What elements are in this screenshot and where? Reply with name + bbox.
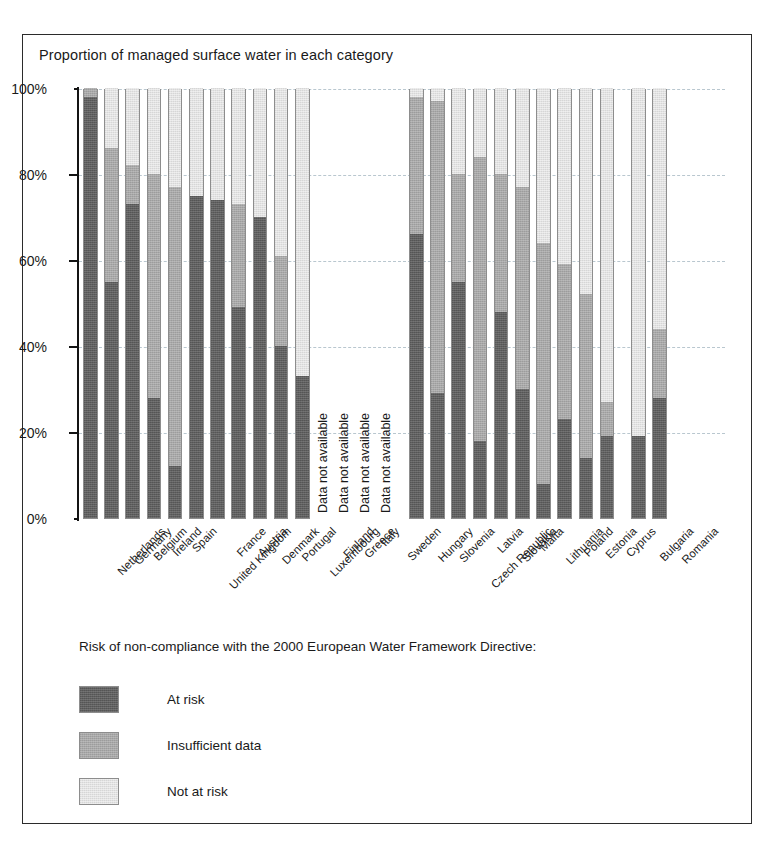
bar-malta[interactable]	[515, 89, 530, 519]
bar-hungary[interactable]	[409, 89, 424, 519]
bar-united-kingdom[interactable]	[189, 89, 204, 519]
bar-segment-at-risk	[105, 282, 118, 519]
bar-segment-insufficient-data	[580, 294, 593, 457]
no-data-label: Data not available	[358, 413, 372, 513]
bar-segment-insufficient-data	[84, 88, 97, 97]
y-tick-label-80: 80%	[19, 167, 47, 183]
bar-segment-insufficient-data	[452, 174, 465, 282]
bar-segment-not-at-risk	[169, 88, 182, 187]
y-tick-40	[69, 346, 77, 348]
bar-spain[interactable]	[168, 89, 183, 519]
legend-swatch-insufficient-data	[79, 732, 119, 759]
bar-segment-insufficient-data	[558, 264, 571, 419]
y-axis-line	[77, 87, 79, 521]
bar-segment-not-at-risk	[190, 88, 203, 196]
bar-estonia[interactable]	[579, 89, 594, 519]
no-data-label: Data not available	[337, 413, 351, 513]
bar-segment-at-risk	[169, 466, 182, 518]
bar-segment-insufficient-data	[516, 187, 529, 389]
bar-segment-not-at-risk	[148, 88, 161, 174]
bar-segment-not-at-risk	[275, 88, 288, 256]
legend-label-not-at-risk: Not at risk	[167, 784, 228, 799]
bar-segment-insufficient-data	[653, 329, 666, 398]
bar-segment-at-risk	[211, 200, 224, 518]
bar-segment-insufficient-data	[275, 256, 288, 346]
bar-latvia[interactable]	[473, 89, 488, 519]
bar-poland[interactable]	[557, 89, 572, 519]
bar-denmark[interactable]	[253, 89, 268, 519]
y-tick-80	[69, 174, 77, 176]
bar-segment-not-at-risk	[232, 88, 245, 204]
y-tick-label-40: 40%	[19, 339, 47, 355]
y-tick-0	[74, 518, 79, 520]
bar-segment-not-at-risk	[105, 88, 118, 148]
bar-segment-not-at-risk	[431, 88, 444, 101]
y-tick-label-0: 0%	[27, 511, 47, 527]
bar-segment-not-at-risk	[601, 88, 614, 402]
bar-segment-at-risk	[190, 196, 203, 519]
bar-germany[interactable]	[104, 89, 119, 519]
bar-segment-at-risk	[232, 307, 245, 518]
y-tick-label-60: 60%	[19, 253, 47, 269]
bar-segment-at-risk	[601, 436, 614, 518]
legend-label-at-risk: At risk	[167, 692, 205, 707]
bar-segment-not-at-risk	[537, 88, 550, 243]
bar-segment-not-at-risk	[211, 88, 224, 200]
bar-segment-not-at-risk	[516, 88, 529, 187]
bar-segment-not-at-risk	[632, 88, 645, 436]
bar-segment-at-risk	[296, 376, 309, 518]
plot-area: Data not availableData not availableData…	[79, 89, 725, 519]
bar-segment-at-risk	[254, 217, 267, 518]
bar-czech-republic[interactable]	[451, 89, 466, 519]
legend-item-insufficient-data[interactable]: Insufficient data	[79, 722, 719, 768]
bar-segment-at-risk	[410, 234, 423, 518]
y-axis	[70, 87, 79, 521]
bar-segment-not-at-risk	[126, 88, 139, 165]
bar-segment-not-at-risk	[410, 88, 423, 97]
bar-segment-not-at-risk	[254, 88, 267, 217]
legend-label-insufficient-data: Insufficient data	[167, 738, 261, 753]
bar-segment-insufficient-data	[601, 402, 614, 436]
bar-segment-at-risk	[474, 441, 487, 518]
bar-segment-insufficient-data	[474, 157, 487, 441]
bar-segment-insufficient-data	[495, 174, 508, 312]
bar-segment-at-risk	[537, 484, 550, 518]
bar-segment-insufficient-data	[148, 174, 161, 398]
bar-segment-at-risk	[495, 312, 508, 518]
bar-segment-not-at-risk	[495, 88, 508, 174]
bar-segment-not-at-risk	[653, 88, 666, 329]
bar-segment-insufficient-data	[431, 101, 444, 393]
legend-item-not-at-risk[interactable]: Not at risk	[79, 768, 719, 814]
legend-swatch-at-risk	[79, 686, 119, 713]
bar-cyprus[interactable]	[600, 89, 615, 519]
bar-lithuania[interactable]	[536, 89, 551, 519]
bar-slovakia[interactable]	[494, 89, 509, 519]
bar-segment-not-at-risk	[580, 88, 593, 294]
bar-segment-insufficient-data	[126, 165, 139, 204]
chart-title: Proportion of managed surface water in e…	[39, 47, 393, 63]
bar-ireland[interactable]	[147, 89, 162, 519]
bar-segment-insufficient-data	[169, 187, 182, 467]
bar-slovenia[interactable]	[430, 89, 445, 519]
bar-bulgaria[interactable]	[631, 89, 646, 519]
bar-austria[interactable]	[231, 89, 246, 519]
bar-segment-insufficient-data	[232, 204, 245, 307]
bar-luxembourg[interactable]	[295, 89, 310, 519]
legend-item-at-risk[interactable]: At risk	[79, 676, 719, 722]
bar-netherlands[interactable]	[83, 89, 98, 519]
bar-romania[interactable]	[652, 89, 667, 519]
legend-title: Risk of non-compliance with the 2000 Eur…	[79, 639, 719, 654]
bar-belgium[interactable]	[125, 89, 140, 519]
bar-segment-at-risk	[516, 389, 529, 518]
y-tick-label-100: 100%	[11, 81, 47, 97]
bar-segment-at-risk	[431, 393, 444, 518]
legend-rows: At riskInsufficient dataNot at risk	[79, 676, 719, 814]
bar-segment-at-risk	[452, 282, 465, 519]
bar-portugal[interactable]	[274, 89, 289, 519]
bar-segment-insufficient-data	[537, 243, 550, 484]
bar-segment-not-at-risk	[474, 88, 487, 157]
bar-france[interactable]	[210, 89, 225, 519]
bar-segment-at-risk	[632, 436, 645, 518]
no-data-label: Data not available	[379, 413, 393, 513]
bar-segment-not-at-risk	[296, 88, 309, 376]
